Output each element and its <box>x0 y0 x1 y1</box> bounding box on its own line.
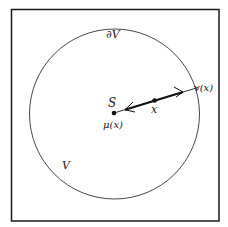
region-label: V <box>62 159 71 172</box>
boundary-label: ∂V <box>106 28 121 41</box>
point-label: x <box>151 103 158 116</box>
frame <box>12 10 220 222</box>
boundary-map-label: v(x) <box>194 82 213 93</box>
center-point-dot <box>112 111 117 116</box>
center-label: S <box>108 96 116 110</box>
center-map-label: μ(x) <box>103 119 123 130</box>
diagram-canvas: ∂V V S μ(x) x v(x) <box>0 0 228 227</box>
